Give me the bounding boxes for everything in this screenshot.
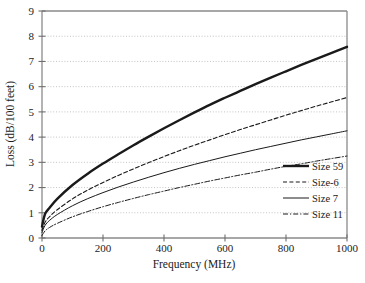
- y-tick-label-6: 6: [29, 80, 35, 92]
- chart-container: 0123456789 02004006008001000 Frequency (…: [0, 0, 365, 283]
- chart-background: [0, 0, 365, 283]
- legend-label-size-11: Size 11: [312, 209, 343, 220]
- loss-vs-frequency-chart: 0123456789 02004006008001000 Frequency (…: [0, 0, 365, 283]
- y-tick-label-4: 4: [29, 131, 35, 143]
- legend-label-size-59: Size 59: [312, 161, 343, 172]
- y-tick-label-5: 5: [29, 106, 35, 118]
- x-axis-title: Frequency (MHz): [153, 258, 236, 271]
- x-tick-label-200: 200: [95, 242, 112, 254]
- y-tick-label-1: 1: [29, 207, 35, 219]
- y-tick-label-9: 9: [29, 5, 35, 17]
- x-tick-label-0: 0: [39, 242, 45, 254]
- y-axis-title: Loss (dB/100 feet): [4, 81, 17, 167]
- y-tick-label-8: 8: [29, 30, 35, 42]
- y-tick-label-3: 3: [29, 156, 35, 168]
- x-tick-label-800: 800: [278, 242, 295, 254]
- x-tick-label-1000: 1000: [336, 242, 359, 254]
- x-tick-label-600: 600: [217, 242, 234, 254]
- y-tick-label-2: 2: [29, 181, 35, 193]
- y-tick-label-0: 0: [29, 232, 35, 244]
- legend-label-size-6: Size-6: [312, 177, 339, 188]
- x-tick-label-400: 400: [156, 242, 173, 254]
- y-tick-label-7: 7: [29, 55, 35, 67]
- legend-label-size-7: Size 7: [312, 193, 338, 204]
